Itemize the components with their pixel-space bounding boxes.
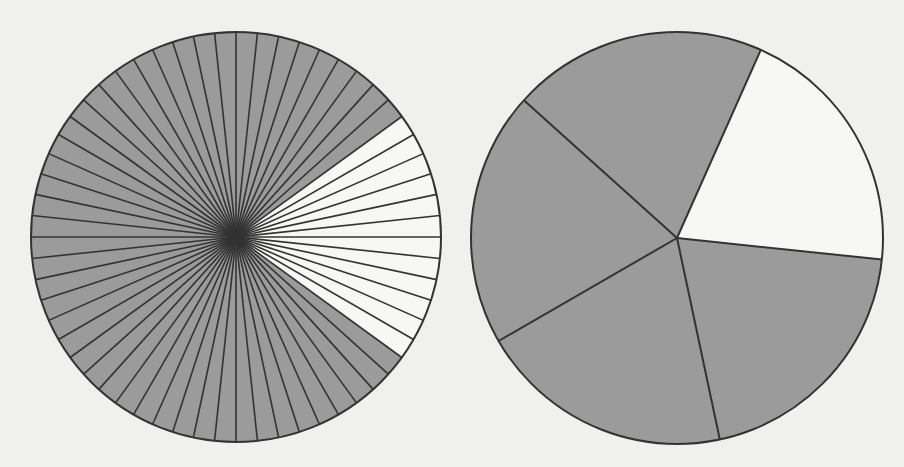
- right-fraction-circle: [471, 32, 883, 444]
- fraction-figure: 48/60 shaded 4/5 shaded: [0, 0, 904, 467]
- left-fraction-circle: [31, 32, 441, 442]
- fraction-circles-diagram: [0, 0, 904, 467]
